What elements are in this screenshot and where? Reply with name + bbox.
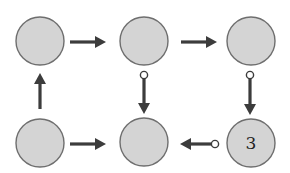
state-diagram: 3 <box>0 0 290 173</box>
node-top-left <box>16 17 64 65</box>
node-bottom-middle <box>120 118 168 166</box>
arrow-down-circle-tail-icon <box>244 71 256 115</box>
svg-text:3: 3 <box>246 133 257 153</box>
arrow-right-icon <box>181 36 217 48</box>
arrow-down-circle-tail-icon <box>138 71 150 114</box>
arrow-right-icon <box>70 138 106 150</box>
node-top-right <box>227 17 275 65</box>
node-bottom-left <box>16 119 64 167</box>
arrow-right-icon <box>70 36 106 48</box>
arrow-up-icon <box>34 73 46 109</box>
node-top-middle <box>120 17 168 65</box>
node-bottom-right: 3 <box>227 119 275 167</box>
arrow-left-circle-tail-icon <box>180 138 219 150</box>
